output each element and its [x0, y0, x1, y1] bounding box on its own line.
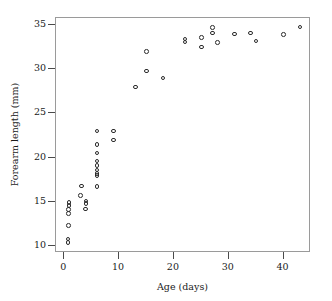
data-point — [144, 49, 149, 54]
data-point — [281, 32, 286, 37]
y-axis-tick-labels: 101520253035 — [0, 0, 46, 301]
data-point — [210, 31, 215, 36]
x-axis-tick — [118, 252, 119, 259]
data-point — [298, 25, 303, 30]
data-point — [66, 207, 71, 212]
x-axis-tick — [173, 252, 174, 259]
y-axis-tick — [48, 68, 55, 69]
data-point — [144, 69, 149, 74]
data-point — [111, 138, 116, 143]
y-axis-tick — [48, 157, 55, 158]
x-axis-tick-label: 20 — [153, 262, 193, 272]
data-point — [254, 39, 259, 44]
data-point — [83, 207, 88, 212]
plot-area — [55, 17, 310, 252]
x-axis-tick-label: 30 — [208, 262, 248, 272]
data-point — [215, 40, 220, 45]
x-axis-tick — [228, 252, 229, 259]
data-point — [210, 25, 215, 30]
data-point — [95, 159, 100, 164]
y-axis-tick — [48, 112, 55, 113]
data-point — [95, 184, 100, 189]
y-axis-title-text: Forearm length (mm) — [8, 17, 22, 252]
data-point — [111, 129, 116, 134]
data-point — [199, 45, 204, 50]
y-axis-tick — [48, 245, 55, 246]
data-point — [78, 193, 83, 198]
data-point — [95, 151, 100, 156]
x-axis-tick — [283, 252, 284, 259]
x-axis-tick — [63, 252, 64, 259]
data-point — [95, 142, 100, 147]
data-point — [161, 76, 166, 81]
data-point — [199, 35, 204, 40]
data-point — [95, 163, 100, 168]
x-axis-tick-label: 10 — [98, 262, 138, 272]
y-axis-tick — [48, 201, 55, 202]
x-axis-tick-label: 40 — [263, 262, 303, 272]
y-axis-title: Forearm length (mm) — [8, 17, 22, 252]
data-point — [248, 31, 253, 36]
data-point — [133, 85, 138, 90]
data-point — [95, 129, 100, 134]
x-axis-tick-label: 0 — [43, 262, 83, 272]
y-axis-tick — [48, 24, 55, 25]
data-point — [232, 32, 237, 37]
data-point — [79, 184, 84, 189]
x-axis-title: Age (days) — [55, 281, 310, 292]
data-points-layer — [56, 18, 309, 251]
scatter-plot-figure: 101520253035 Forearm length (mm) 0102030… — [0, 0, 332, 301]
data-point — [66, 223, 71, 228]
